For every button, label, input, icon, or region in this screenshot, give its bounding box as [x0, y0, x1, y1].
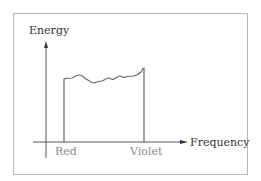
x-axis-label: Frequency — [190, 136, 250, 149]
y-axis-label: Energy — [29, 24, 69, 37]
x-tick-red: Red — [55, 145, 77, 158]
y-axis-arrow-icon — [44, 41, 48, 48]
energy-spectrum-curve — [64, 68, 144, 142]
x-axis-arrow-icon — [180, 140, 188, 144]
x-tick-violet: Violet — [130, 145, 162, 158]
